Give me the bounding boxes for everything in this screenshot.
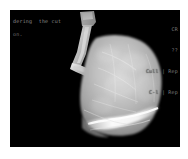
screenshot-root: dering the cut on. CR ?? Cull | Rep C-l …	[0, 0, 188, 159]
lung-render-svg	[10, 10, 180, 147]
render-scene	[10, 10, 180, 147]
volume-render-viewport[interactable]: dering the cut on. CR ?? Cull | Rep C-l …	[10, 10, 180, 147]
